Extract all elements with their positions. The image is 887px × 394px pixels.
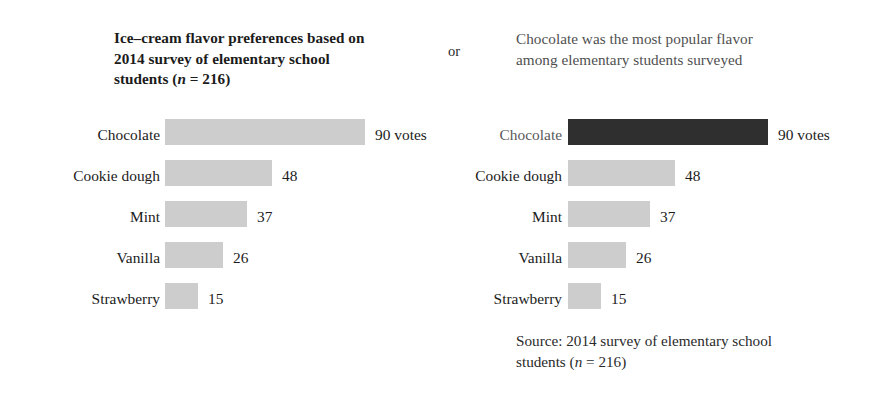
- left-row-label-vanilla: Vanilla: [116, 249, 160, 267]
- right-row-label-chocolate: Chocolate: [500, 126, 562, 144]
- bar-row: Mint 37: [0, 196, 430, 237]
- right-chart-title-line-1: Chocolate was the most popular flavor: [516, 29, 846, 50]
- right-bar-mint: [568, 201, 650, 227]
- right-chart-title: Chocolate was the most popular flavor am…: [516, 29, 846, 70]
- source-note-line-1: Source: 2014 survey of elementary school: [516, 330, 866, 351]
- bar-row: Cookie dough 48: [0, 155, 430, 196]
- right-bar-value-chocolate: 90 votes: [778, 126, 830, 144]
- source-students-pre: students (: [516, 353, 575, 370]
- right-row-label-strawberry: Strawberry: [494, 290, 562, 308]
- right-bar-chocolate: [568, 119, 768, 145]
- left-row-label-chocolate: Chocolate: [98, 126, 160, 144]
- left-row-label-mint: Mint: [130, 208, 160, 226]
- right-bar-value-cookie-dough: 48: [685, 167, 700, 185]
- left-bar-strawberry: [165, 283, 198, 309]
- right-bar-value-vanilla: 26: [636, 249, 651, 267]
- left-chart-title: Ice–cream flavor preferences based on 20…: [114, 28, 414, 90]
- left-row-label-strawberry: Strawberry: [92, 290, 160, 308]
- left-row-label-cookie-dough: Cookie dough: [73, 167, 160, 185]
- left-bar-value-chocolate: 90 votes: [375, 126, 427, 144]
- source-note-line-2: students (n = 216): [516, 351, 866, 372]
- left-chart-title-line-1: Ice–cream flavor preferences based on: [114, 28, 414, 49]
- source-students-post: = 216): [582, 353, 626, 370]
- left-chart-title-line-2: 2014 survey of elementary school: [114, 49, 414, 70]
- right-row-label-mint: Mint: [532, 208, 562, 226]
- left-title-n-symbol: n: [177, 70, 186, 87]
- left-bar-chocolate: [165, 119, 365, 145]
- left-bar-vanilla: [165, 242, 223, 268]
- left-title-students-pre: students (: [114, 70, 177, 87]
- bar-row: Strawberry 15: [0, 278, 430, 319]
- figure-canvas: Ice–cream flavor preferences based on 20…: [0, 0, 887, 394]
- left-bar-value-strawberry: 15: [208, 290, 223, 308]
- bar-row: Chocolate 90 votes: [0, 114, 430, 155]
- right-bar-value-mint: 37: [660, 208, 675, 226]
- right-row-label-cookie-dough: Cookie dough: [475, 167, 562, 185]
- left-bar-cookie-dough: [165, 160, 272, 186]
- right-chart-title-line-2: among elementary students surveyed: [516, 50, 846, 71]
- left-bar-value-vanilla: 26: [233, 249, 248, 267]
- left-bar-mint: [165, 201, 247, 227]
- bar-row: Vanilla 26: [0, 237, 430, 278]
- right-bar-strawberry: [568, 283, 601, 309]
- left-bar-value-cookie-dough: 48: [282, 167, 297, 185]
- bar-row: Strawberry 15: [460, 278, 887, 319]
- right-bar-vanilla: [568, 242, 626, 268]
- right-bar-cookie-dough: [568, 160, 675, 186]
- bar-row: Mint 37: [460, 196, 887, 237]
- right-row-label-vanilla: Vanilla: [518, 249, 562, 267]
- bar-row: Chocolate 90 votes: [460, 114, 887, 155]
- left-chart-rows: Chocolate 90 votes Cookie dough 48 Mint …: [0, 114, 430, 319]
- bar-row: Cookie dough 48: [460, 155, 887, 196]
- left-bar-value-mint: 37: [257, 208, 272, 226]
- or-connector-label: or: [437, 43, 471, 60]
- bar-row: Vanilla 26: [460, 237, 887, 278]
- right-chart-rows: Chocolate 90 votes Cookie dough 48 Mint …: [460, 114, 887, 319]
- source-note: Source: 2014 survey of elementary school…: [516, 330, 866, 372]
- left-chart-title-line-3: students (n = 216): [114, 69, 414, 90]
- right-bar-value-strawberry: 15: [611, 290, 626, 308]
- left-title-students-post: = 216): [186, 70, 230, 87]
